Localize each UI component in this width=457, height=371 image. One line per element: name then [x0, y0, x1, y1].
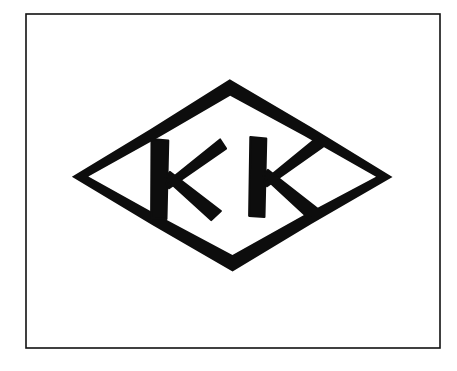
screenshot-root: KK lozenge outline: [0, 0, 457, 371]
trademark-mark-image: [0, 0, 457, 371]
page-background: [0, 0, 457, 371]
scan-speck-artifact: [319, 120, 322, 123]
